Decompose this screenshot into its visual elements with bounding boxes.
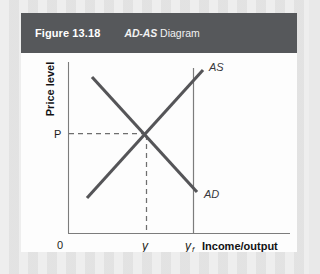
price-tick-label: P bbox=[54, 128, 61, 140]
chart-plot-area: Price level AS AD P 0 bbox=[21, 53, 297, 252]
origin-label: 0 bbox=[57, 239, 63, 251]
figure-caption-rest: Diagram bbox=[157, 27, 200, 39]
ad-as-chart: AS AD P 0 y y f Income/output bbox=[21, 53, 297, 252]
figure-panel: Figure 13.18 AD-AS Diagram Price level A… bbox=[21, 13, 297, 252]
full-employment-tick-subscript: f bbox=[192, 245, 195, 252]
figure-number-label: Figure 13.18 bbox=[35, 27, 100, 39]
full-employment-tick-label: y bbox=[184, 239, 192, 252]
output-tick-label: y bbox=[141, 239, 149, 252]
figure-header-bar: Figure 13.18 AD-AS Diagram bbox=[21, 13, 297, 53]
x-axis-title: Income/output bbox=[202, 240, 278, 252]
figure-caption: AD-AS Diagram bbox=[124, 27, 199, 39]
as-curve-label: AS bbox=[208, 61, 224, 73]
figure-caption-italic: AD-AS bbox=[124, 27, 157, 39]
ad-curve-label: AD bbox=[203, 188, 219, 200]
